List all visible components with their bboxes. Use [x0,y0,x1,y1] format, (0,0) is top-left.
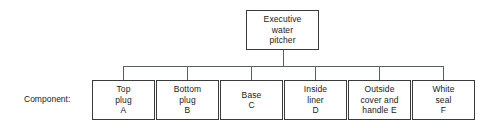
box-bottom-plug: Bottom plug B [156,80,219,120]
box-base: Base C [220,80,283,120]
box-bottom-plug-line-1: Bottom [174,84,202,95]
box-top-plug-line-2: plug [115,95,131,106]
box-top-plug: Top plug A [92,80,155,120]
box-white-seal-line-2: seal [436,95,452,106]
box-inside-liner: Inside liner D [284,80,347,120]
box-top-plug-line-3: A [121,105,127,116]
box-outside-cover-line-2: cover and [360,95,398,106]
component-row-label: Component: [24,94,70,105]
box-base-line-1: Base [242,90,262,101]
box-outside-cover-line-3: handle E [362,105,396,116]
box-bottom-plug-line-2: plug [179,95,195,106]
box-base-line-2: C [248,100,254,111]
box-white-seal: White seal F [412,80,475,120]
product-breakdown-diagram: Executive water pitcher Component: Top p… [0,0,499,128]
box-outside-cover-line-1: Outside [365,84,395,95]
root-node-line-2: water [272,25,293,36]
box-inside-liner-line-1: Inside [304,84,327,95]
box-top-plug-line-1: Top [116,84,130,95]
root-node-executive-water-pitcher: Executive water pitcher [246,10,319,50]
box-white-seal-line-1: White [432,84,454,95]
box-inside-liner-line-2: liner [307,95,324,106]
box-bottom-plug-line-3: B [185,105,191,116]
root-node-line-3: pitcher [269,35,295,46]
box-white-seal-line-3: F [441,105,446,116]
root-node-line-1: Executive [264,14,302,25]
box-inside-liner-line-3: D [312,105,318,116]
box-outside-cover: Outside cover and handle E [348,80,411,120]
